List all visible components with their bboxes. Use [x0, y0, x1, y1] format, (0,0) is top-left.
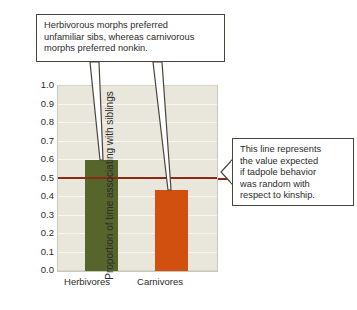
- gridline: [58, 159, 217, 160]
- pointer-to-reference-line: [221, 160, 232, 184]
- reference-line-extension: [218, 178, 232, 180]
- gridline: [58, 215, 217, 216]
- y-axis-ticks: 1.00.90.80.70.60.50.40.30.20.10.0: [24, 80, 54, 277]
- gridline: [58, 141, 217, 142]
- gridline: [58, 104, 217, 105]
- callout-top-line1: Herbivorous morphs preferred: [44, 20, 218, 32]
- gridline: [58, 122, 217, 123]
- y-axis-tick: 1.0: [41, 80, 54, 90]
- callout-right-line5: respect to kinship.: [240, 190, 347, 202]
- gridline: [58, 85, 217, 86]
- gridline: [58, 270, 217, 271]
- chart-figure: 1.00.90.80.70.60.50.40.30.20.10.0 Propor…: [0, 0, 357, 310]
- gridline: [58, 252, 217, 253]
- callout-right-line3: if tadpole behavior: [240, 167, 347, 179]
- gridlines: [58, 86, 217, 271]
- y-axis-tick: 0.3: [41, 210, 54, 220]
- plot-area: [57, 85, 218, 272]
- y-axis-tick: 0.1: [41, 247, 54, 257]
- y-axis-title: Proportion of time associating with sibl…: [104, 91, 115, 281]
- callout-top-line3: morphs preferred nonkin.: [44, 43, 218, 55]
- callout-top: Herbivorous morphs preferred unfamiliar …: [36, 14, 225, 62]
- y-axis-tick: 0.5: [41, 173, 54, 183]
- callout-right-line1: This line represents: [240, 144, 347, 156]
- gridline: [58, 196, 217, 197]
- callout-right: This line represents the value expected …: [232, 138, 354, 206]
- x-axis-tick-carnivores: Carnivores: [130, 276, 190, 287]
- y-axis-tick: 0.8: [41, 117, 54, 127]
- y-axis-tick: 0.9: [41, 99, 54, 109]
- callout-top-line2: unfamiliar sibs, whereas carnivorous: [44, 32, 218, 44]
- callout-right-line4: was random with: [240, 179, 347, 191]
- y-axis-tick: 0.7: [41, 136, 54, 146]
- callout-right-line2: the value expected: [240, 156, 347, 168]
- gridline: [58, 233, 217, 234]
- y-axis-tick: 0.6: [41, 154, 54, 164]
- y-axis-tick: 0.2: [41, 228, 54, 238]
- x-axis-tick-herbivores: Herbivores: [57, 276, 117, 287]
- y-axis-tick: 0.4: [41, 191, 54, 201]
- y-axis-tick: 0.0: [41, 265, 54, 275]
- reference-line: [58, 177, 217, 179]
- bar-carnivores: [155, 190, 188, 271]
